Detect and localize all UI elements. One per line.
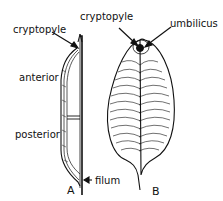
chitinozoan-diagram: cryptopyle anterior posterior A cryptopy… [0,0,223,201]
panel-b-letter: B [152,186,160,197]
label-filum: filum [95,176,120,186]
panel-a-letter: A [67,185,75,196]
arrow-cryptopyle-b [119,28,138,46]
arrow-umbilicus [145,27,171,47]
label-cryptopyle-a: cryptopyle [13,25,66,35]
panel-b-exterior [108,39,175,190]
label-umbilicus: umbilicus [170,19,218,29]
panel-a-section [61,34,82,195]
label-cryptopyle-b: cryptopyle [80,12,133,22]
label-anterior: anterior [19,73,59,83]
label-posterior: posterior [15,130,60,140]
arrow-filum [84,177,92,183]
